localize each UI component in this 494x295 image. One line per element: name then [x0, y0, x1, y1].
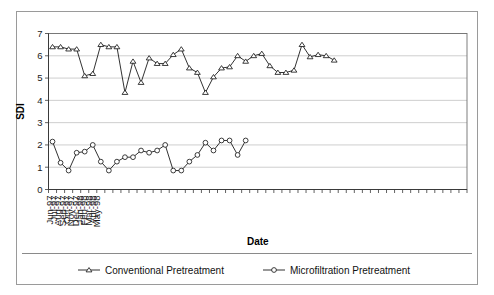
x-axis-title: Date [247, 236, 269, 247]
y-tick-labels: 01234567 [37, 28, 48, 195]
y-tick-label: 7 [37, 28, 42, 39]
legend-label: Conventional Pretreatment [105, 265, 224, 276]
x-tick-labels: Jun-97Jul-97Aug-97Sep-97Oct-97Nov-97Dec-… [44, 196, 103, 228]
y-tick-label: 6 [37, 50, 42, 61]
x-tick-label: May-98 [91, 196, 102, 228]
y-tick-label: 4 [37, 95, 42, 106]
chart-canvas: 01234567 Jun-97Jul-97Aug-97Sep-97Oct-97N… [0, 0, 494, 295]
plot-frame [49, 34, 468, 190]
gridlines-group [49, 34, 468, 190]
y-tick-label: 5 [37, 72, 42, 83]
y-tick-label: 0 [37, 184, 42, 195]
y-axis-title: SDI [15, 103, 26, 120]
chart-figure: 01234567 Jun-97Jul-97Aug-97Sep-97Oct-97N… [0, 0, 494, 295]
chart-legend: Conventional PretreatmentMicrofiltration… [22, 254, 472, 276]
series-conventional-pretreatment [50, 42, 337, 94]
legend-label: Microfiltration Pretreatment [290, 265, 410, 276]
y-tick-label: 3 [37, 117, 42, 128]
y-tick-label: 2 [37, 139, 42, 150]
x-tickmarks [49, 190, 468, 194]
series-microfiltration-pretreatment [50, 138, 248, 173]
y-tick-label: 1 [37, 162, 42, 173]
